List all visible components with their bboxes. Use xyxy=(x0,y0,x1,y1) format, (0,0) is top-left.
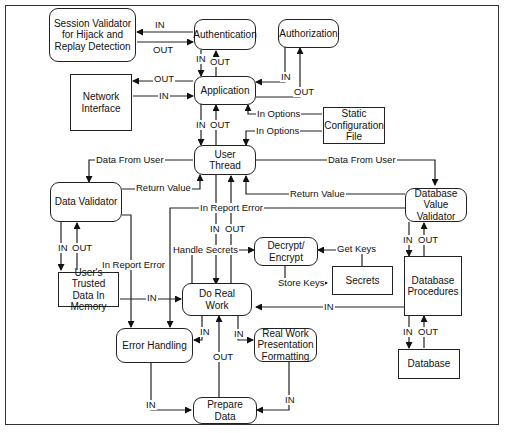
label-return-value-right: Return Value xyxy=(289,189,346,199)
label-dbp-in: IN xyxy=(323,302,335,312)
label-err-prep-in: IN xyxy=(145,400,157,410)
label-sv-out: OUT xyxy=(152,45,174,55)
label-handle-secrets: Handle Secrets xyxy=(172,245,239,255)
node-database: Database xyxy=(398,349,460,379)
node-decrypt-encrypt: Decrypt/ Encrypt xyxy=(254,237,318,266)
label-ut-in: IN xyxy=(209,224,221,234)
label-auth-out: OUT xyxy=(209,57,231,67)
node-db-procedures: Database Procedures xyxy=(404,256,462,316)
label-options-1: In Options xyxy=(256,109,301,119)
label-dv-out: OUT xyxy=(71,243,93,253)
label-db-out: OUT xyxy=(417,327,439,337)
node-error-handling: Error Handling xyxy=(116,328,193,363)
label-pres-prep-in: IN xyxy=(284,395,296,405)
label-get-keys: Get Keys xyxy=(336,244,377,254)
node-session-validator: Session Validator for Hijack and Replay … xyxy=(49,8,136,62)
label-data-from-user-right: Data From User xyxy=(327,155,397,165)
label-dv-in: IN xyxy=(57,243,69,253)
label-dbv-out: OUT xyxy=(417,235,439,245)
node-application: Application xyxy=(194,76,256,105)
label-net-in: IN xyxy=(158,91,170,101)
node-network-interface: Network Interface xyxy=(70,74,132,131)
label-prep-out: OUT xyxy=(212,352,234,362)
node-db-value-validator: Database Value Validator xyxy=(405,188,467,222)
node-presentation: Real Work Presentation Formatting xyxy=(254,328,317,362)
label-ut-out: OUT xyxy=(224,224,246,234)
label-sv-in: IN xyxy=(154,20,166,30)
label-trusted-in: IN xyxy=(146,293,158,303)
node-data-validator: Data Validator xyxy=(50,182,122,222)
node-authorization: Authorization xyxy=(278,19,339,48)
node-static-config: Static Configuration File xyxy=(323,107,385,144)
label-report-error-left: In Report Error xyxy=(101,260,166,270)
label-options-2: In Options xyxy=(255,126,300,136)
label-store-keys: Store Keys xyxy=(277,278,325,288)
label-authz-in: IN xyxy=(280,72,292,82)
label-drw-pres-in: IN xyxy=(233,329,245,339)
node-user-thread: User Thread xyxy=(194,145,256,175)
label-data-from-user-left: Data From User xyxy=(95,155,165,165)
node-secrets: Secrets xyxy=(332,266,393,295)
label-db-in: IN xyxy=(402,327,414,337)
label-return-value-left: Return Value xyxy=(135,183,192,193)
node-prepare-data: Prepare Data xyxy=(193,397,257,424)
label-auth-in: IN xyxy=(195,54,207,64)
label-drw-err-in: IN xyxy=(199,327,211,337)
label-app-in: IN xyxy=(195,120,207,130)
label-dbv-in: IN xyxy=(402,235,414,245)
node-do-real-work: Do Real Work xyxy=(182,283,252,316)
label-report-error-top: In Report Error xyxy=(199,203,264,213)
label-net-out: OUT xyxy=(153,74,175,84)
node-authentication: Authentication xyxy=(194,19,256,50)
label-authz-out: OUT xyxy=(293,87,315,97)
node-trusted-data: User's Trusted Data In Memory xyxy=(58,272,119,307)
label-app-out: OUT xyxy=(209,120,231,130)
